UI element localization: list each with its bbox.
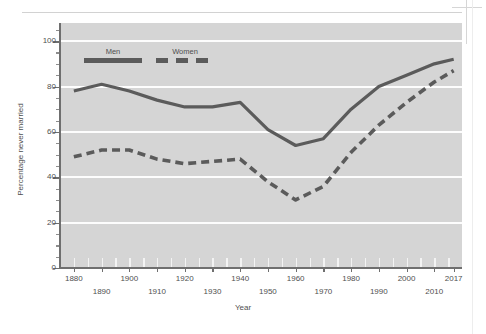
- y-axis-title: Percentage never married: [16, 80, 25, 220]
- y-tick-label-60: 60: [34, 128, 56, 136]
- legend-entry-men: Men: [84, 47, 142, 63]
- y-tick-minor-30: [56, 200, 60, 201]
- chart-legend: Men Women: [84, 47, 214, 73]
- y-tick-label-80: 80: [34, 83, 56, 91]
- y-tick-label-0: 0: [34, 264, 56, 272]
- x-tick-1910: [157, 268, 158, 272]
- x-tick-label-2017: 2017: [445, 274, 463, 283]
- x-tick-label-1910: 1910: [148, 287, 166, 296]
- x-tick-label-1980: 1980: [342, 274, 360, 283]
- x-tick-1950: [268, 268, 269, 272]
- x-tick-2010: [434, 268, 435, 272]
- x-tick-label-1950: 1950: [259, 287, 277, 296]
- y-tick-minor-25: [56, 211, 60, 212]
- x-tick-1990: [379, 268, 380, 272]
- y-tick-minor-55: [56, 143, 60, 144]
- y-tick-minor-35: [56, 189, 60, 190]
- x-axis-title: Year: [0, 303, 486, 312]
- x-tick-2017: [454, 268, 455, 272]
- x-tick-1930: [212, 268, 213, 272]
- x-tick-1980: [351, 268, 352, 272]
- y-tick-minor-90: [56, 64, 60, 65]
- y-tick-minor-85: [56, 75, 60, 76]
- x-tick-label-2010: 2010: [425, 287, 443, 296]
- x-tick-label-1880: 1880: [65, 274, 83, 283]
- x-tick-label-1920: 1920: [176, 274, 194, 283]
- y-tick-label-100: 100: [34, 37, 56, 45]
- legend-label-women: Women: [156, 47, 214, 56]
- x-tick-1970: [323, 268, 324, 272]
- x-tick-1890: [102, 268, 103, 272]
- line-chart-figure: 020406080100 188019001920194019601980200…: [0, 0, 486, 334]
- y-tick-minor-45: [56, 166, 60, 167]
- y-tick-minor-15: [56, 234, 60, 235]
- y-axis-tick-labels: 020406080100: [28, 0, 56, 334]
- y-tick-minor-65: [56, 121, 60, 122]
- x-tick-label-1960: 1960: [287, 274, 305, 283]
- x-tick-label-1900: 1900: [120, 274, 138, 283]
- y-tick-minor-70: [56, 109, 60, 110]
- y-tick-label-20: 20: [34, 219, 56, 227]
- x-tick-1960: [296, 268, 297, 272]
- x-tick-1940: [240, 268, 241, 272]
- x-tick-label-2000: 2000: [398, 274, 416, 283]
- legend-entry-women: Women: [156, 47, 214, 63]
- x-tick-label-1940: 1940: [231, 274, 249, 283]
- legend-swatch-women: [156, 58, 214, 63]
- y-tick-minor-105: [56, 30, 60, 31]
- x-tick-1900: [129, 268, 130, 272]
- y-tick-minor-95: [56, 52, 60, 53]
- legend-swatch-men: [84, 58, 142, 63]
- legend-label-men: Men: [84, 47, 142, 56]
- x-tick-1880: [74, 268, 75, 272]
- x-tick-1920: [185, 268, 186, 272]
- x-tick-label-1890: 1890: [93, 287, 111, 296]
- y-tick-minor-75: [56, 98, 60, 99]
- x-tick-label-1990: 1990: [370, 287, 388, 296]
- x-tick-2000: [407, 268, 408, 272]
- y-tick-label-40: 40: [34, 173, 56, 181]
- x-tick-label-1970: 1970: [314, 287, 332, 296]
- y-tick-minor-10: [56, 245, 60, 246]
- y-tick-minor-5: [56, 257, 60, 258]
- y-tick-minor-50: [56, 155, 60, 156]
- x-tick-label-1930: 1930: [204, 287, 222, 296]
